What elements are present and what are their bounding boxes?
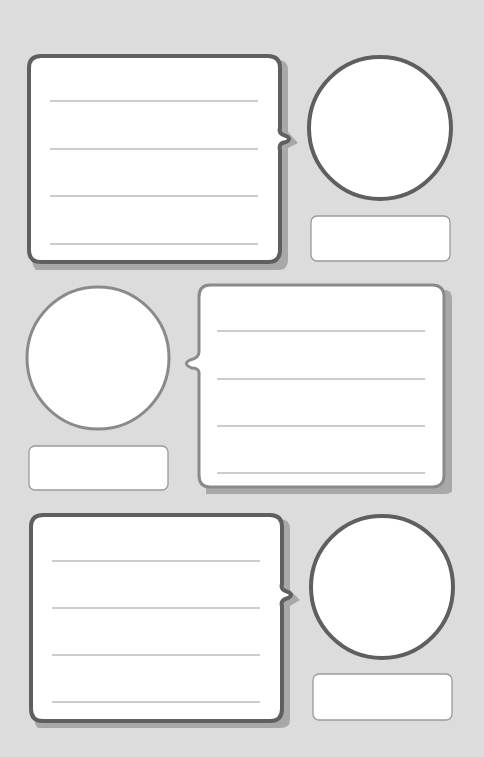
name-box-3[interactable] <box>313 674 452 720</box>
name-box-2[interactable] <box>29 446 168 490</box>
row-3 <box>31 515 453 728</box>
portrait-circle-3[interactable] <box>311 516 453 658</box>
row-1 <box>29 56 451 270</box>
speech-bubble-2[interactable] <box>186 285 452 494</box>
portrait-circle-1[interactable] <box>309 57 451 199</box>
speech-bubble-3[interactable] <box>31 515 300 728</box>
bubble-body <box>186 285 444 487</box>
bubble-body <box>29 56 289 262</box>
worksheet-canvas <box>0 0 484 757</box>
bubble-body <box>31 515 291 721</box>
name-box-1[interactable] <box>311 216 450 261</box>
portrait-circle-2[interactable] <box>27 287 169 429</box>
speech-bubble-1[interactable] <box>29 56 298 270</box>
row-2 <box>27 285 452 494</box>
